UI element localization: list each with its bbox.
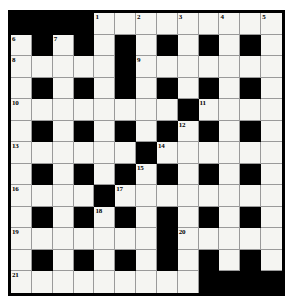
crossword-letter-cell[interactable] [136, 78, 157, 100]
crossword-letter-cell[interactable]: 21 [11, 271, 32, 293]
crossword-letter-cell[interactable] [53, 250, 74, 272]
crossword-letter-cell[interactable] [219, 250, 240, 272]
crossword-letter-cell[interactable] [261, 121, 282, 143]
crossword-letter-cell[interactable]: 11 [199, 99, 220, 121]
crossword-letter-cell[interactable] [32, 142, 53, 164]
crossword-letter-cell[interactable] [136, 121, 157, 143]
crossword-letter-cell[interactable] [136, 271, 157, 293]
crossword-letter-cell[interactable] [136, 228, 157, 250]
crossword-letter-cell[interactable] [53, 164, 74, 186]
crossword-letter-cell[interactable] [157, 56, 178, 78]
crossword-letter-cell[interactable]: 19 [11, 228, 32, 250]
crossword-letter-cell[interactable] [74, 185, 95, 207]
crossword-letter-cell[interactable]: 20 [178, 228, 199, 250]
crossword-letter-cell[interactable] [199, 185, 220, 207]
crossword-letter-cell[interactable] [219, 99, 240, 121]
crossword-letter-cell[interactable] [74, 99, 95, 121]
crossword-letter-cell[interactable] [136, 207, 157, 229]
crossword-letter-cell[interactable] [136, 185, 157, 207]
crossword-letter-cell[interactable] [94, 35, 115, 57]
crossword-letter-cell[interactable] [178, 142, 199, 164]
crossword-letter-cell[interactable] [11, 121, 32, 143]
crossword-letter-cell[interactable]: 16 [11, 185, 32, 207]
crossword-letter-cell[interactable] [94, 250, 115, 272]
crossword-letter-cell[interactable] [261, 78, 282, 100]
crossword-letter-cell[interactable] [240, 99, 261, 121]
crossword-letter-cell[interactable] [157, 99, 178, 121]
crossword-letter-cell[interactable] [219, 185, 240, 207]
crossword-letter-cell[interactable] [115, 142, 136, 164]
crossword-letter-cell[interactable] [240, 13, 261, 35]
crossword-letter-cell[interactable] [219, 207, 240, 229]
crossword-letter-cell[interactable] [94, 78, 115, 100]
crossword-letter-cell[interactable] [11, 78, 32, 100]
crossword-letter-cell[interactable] [261, 164, 282, 186]
crossword-letter-cell[interactable] [178, 185, 199, 207]
crossword-letter-cell[interactable] [136, 35, 157, 57]
crossword-letter-cell[interactable] [261, 56, 282, 78]
crossword-letter-cell[interactable] [219, 121, 240, 143]
crossword-letter-cell[interactable] [115, 228, 136, 250]
crossword-letter-cell[interactable] [94, 228, 115, 250]
crossword-letter-cell[interactable] [157, 13, 178, 35]
crossword-letter-cell[interactable] [115, 271, 136, 293]
crossword-letter-cell[interactable]: 6 [11, 35, 32, 57]
crossword-letter-cell[interactable]: 5 [261, 13, 282, 35]
crossword-letter-cell[interactable] [178, 207, 199, 229]
crossword-letter-cell[interactable] [74, 56, 95, 78]
crossword-letter-cell[interactable] [11, 164, 32, 186]
crossword-letter-cell[interactable] [94, 142, 115, 164]
crossword-letter-cell[interactable] [199, 56, 220, 78]
crossword-letter-cell[interactable] [53, 185, 74, 207]
crossword-letter-cell[interactable] [94, 121, 115, 143]
crossword-letter-cell[interactable] [32, 271, 53, 293]
crossword-letter-cell[interactable] [32, 56, 53, 78]
crossword-letter-cell[interactable]: 7 [53, 35, 74, 57]
crossword-letter-cell[interactable] [53, 207, 74, 229]
crossword-letter-cell[interactable]: 12 [178, 121, 199, 143]
crossword-letter-cell[interactable] [178, 271, 199, 293]
crossword-letter-cell[interactable] [178, 250, 199, 272]
crossword-letter-cell[interactable] [199, 13, 220, 35]
crossword-letter-cell[interactable] [261, 142, 282, 164]
crossword-letter-cell[interactable] [219, 228, 240, 250]
crossword-letter-cell[interactable] [53, 99, 74, 121]
crossword-grid[interactable]: 123456789101112131415161718192021 [11, 13, 282, 293]
crossword-letter-cell[interactable]: 13 [11, 142, 32, 164]
crossword-letter-cell[interactable] [53, 121, 74, 143]
crossword-letter-cell[interactable] [11, 207, 32, 229]
crossword-letter-cell[interactable] [94, 99, 115, 121]
crossword-letter-cell[interactable] [261, 185, 282, 207]
crossword-letter-cell[interactable] [157, 271, 178, 293]
crossword-letter-cell[interactable] [32, 228, 53, 250]
crossword-letter-cell[interactable]: 14 [157, 142, 178, 164]
crossword-letter-cell[interactable] [261, 99, 282, 121]
crossword-letter-cell[interactable] [219, 164, 240, 186]
crossword-letter-cell[interactable] [199, 228, 220, 250]
crossword-letter-cell[interactable] [11, 250, 32, 272]
crossword-letter-cell[interactable] [32, 99, 53, 121]
crossword-letter-cell[interactable] [240, 142, 261, 164]
crossword-letter-cell[interactable]: 3 [178, 13, 199, 35]
crossword-letter-cell[interactable] [240, 56, 261, 78]
crossword-letter-cell[interactable] [74, 228, 95, 250]
crossword-letter-cell[interactable] [261, 35, 282, 57]
crossword-letter-cell[interactable] [53, 142, 74, 164]
crossword-letter-cell[interactable]: 10 [11, 99, 32, 121]
crossword-letter-cell[interactable] [53, 228, 74, 250]
crossword-letter-cell[interactable] [136, 250, 157, 272]
crossword-letter-cell[interactable] [178, 56, 199, 78]
crossword-letter-cell[interactable] [53, 78, 74, 100]
crossword-letter-cell[interactable] [53, 56, 74, 78]
crossword-letter-cell[interactable] [219, 78, 240, 100]
crossword-letter-cell[interactable] [94, 271, 115, 293]
crossword-letter-cell[interactable] [261, 250, 282, 272]
crossword-letter-cell[interactable] [94, 56, 115, 78]
crossword-letter-cell[interactable]: 9 [136, 56, 157, 78]
crossword-letter-cell[interactable] [199, 142, 220, 164]
crossword-letter-cell[interactable]: 4 [219, 13, 240, 35]
crossword-letter-cell[interactable]: 15 [136, 164, 157, 186]
crossword-letter-cell[interactable] [219, 142, 240, 164]
crossword-letter-cell[interactable] [178, 164, 199, 186]
crossword-letter-cell[interactable] [136, 99, 157, 121]
